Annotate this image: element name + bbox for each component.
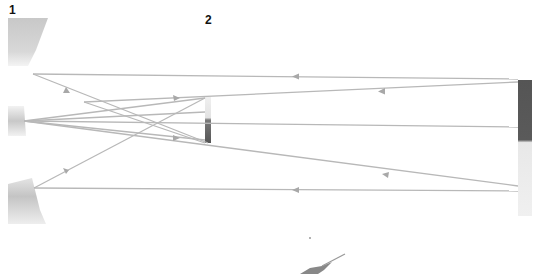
arrow-icon: [63, 168, 69, 174]
dot-mark: [309, 237, 311, 239]
arrow-icon: [292, 74, 299, 80]
right-mirror: [518, 80, 532, 216]
optical-diagram: [0, 0, 546, 274]
arrow-icon: [382, 172, 389, 178]
arrowheads: [63, 74, 389, 194]
center-mirror-2: [205, 97, 211, 143]
arrow-icon: [173, 135, 180, 141]
rays: [24, 74, 518, 191]
bottom-fragment-line: [322, 254, 345, 266]
arrow-icon: [292, 187, 299, 193]
left-middle-mirror: [8, 106, 26, 136]
arrow-icon: [173, 95, 180, 101]
left-top-mirror: [8, 18, 48, 66]
